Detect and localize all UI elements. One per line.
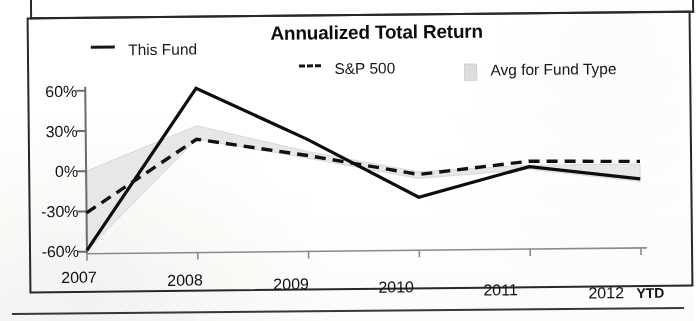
x-axis-line [87,248,647,254]
plot-group [76,81,647,261]
plot-canvas [0,0,696,321]
x-axis-tick-marks [87,248,641,261]
avg-fund-type-band [86,121,641,250]
chart-content: Annualized Total Return This Fund S&P 50… [0,0,696,321]
